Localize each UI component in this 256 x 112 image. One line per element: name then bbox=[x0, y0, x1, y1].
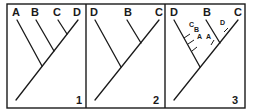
branch-trunk bbox=[95, 20, 159, 100]
character-tick bbox=[188, 40, 194, 44]
branch-b bbox=[36, 20, 54, 51]
annotation-a: A bbox=[206, 33, 211, 40]
panel-number: 3 bbox=[232, 94, 238, 106]
annotation-b: B bbox=[194, 26, 199, 33]
branch-b bbox=[127, 20, 141, 43]
cladogram-figure: A B C D 1 D B C 2 D B C C B A A bbox=[0, 0, 256, 112]
annotation-d: D bbox=[220, 19, 225, 26]
panel-number: 2 bbox=[153, 94, 159, 106]
character-tick bbox=[211, 40, 214, 45]
branch-trunk bbox=[16, 20, 78, 100]
tip-label-b: B bbox=[124, 6, 132, 18]
character-tick bbox=[192, 47, 197, 51]
branch-trunk bbox=[174, 20, 238, 100]
character-tick bbox=[184, 34, 190, 38]
panel-3: D B C C B A A D 3 bbox=[170, 6, 242, 106]
tip-label-c: C bbox=[53, 6, 61, 18]
tip-label-d: D bbox=[170, 6, 178, 18]
tip-label-d: D bbox=[90, 6, 98, 18]
panel-number: 1 bbox=[76, 94, 82, 106]
branch-a bbox=[17, 20, 42, 66]
tip-label-b: B bbox=[203, 6, 211, 18]
tip-label-d: D bbox=[73, 6, 81, 18]
panel-1: A B C D 1 bbox=[12, 6, 82, 106]
character-tick bbox=[224, 28, 228, 32]
tip-label-b: B bbox=[31, 6, 39, 18]
annotation-a: A bbox=[197, 33, 202, 40]
tip-label-c: C bbox=[155, 6, 163, 18]
tip-label-a: A bbox=[12, 6, 20, 18]
branch-d bbox=[95, 20, 121, 67]
tip-label-c: C bbox=[234, 6, 242, 18]
panel-2: D B C 2 bbox=[90, 6, 163, 106]
branch-c bbox=[58, 20, 67, 34]
